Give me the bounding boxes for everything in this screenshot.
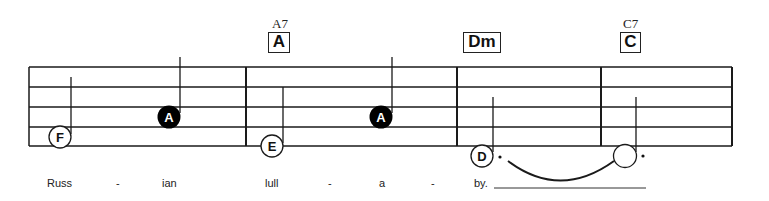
chord-box-c: C xyxy=(620,32,641,53)
note-label: F xyxy=(56,130,64,145)
lyric-syllable: by. xyxy=(474,178,488,189)
chord-box-dm: Dm xyxy=(463,32,501,53)
note-label: E xyxy=(268,139,277,154)
note-label: D xyxy=(477,149,486,164)
tie-curve xyxy=(508,161,614,181)
lyric-syllable: ian xyxy=(162,178,177,189)
chord-box-a: A xyxy=(268,32,290,53)
lyric-hyphen: - xyxy=(116,178,120,189)
dot-icon xyxy=(498,155,501,158)
lyric-syllable: lull xyxy=(265,178,278,189)
note-e: E xyxy=(261,87,283,157)
lyric-syllable: Russ xyxy=(47,178,72,189)
note-label: A xyxy=(164,110,174,125)
chord-name-c7: C7 xyxy=(623,17,638,30)
lyric-hyphen: - xyxy=(431,178,435,189)
sheet-music: F A E A D xyxy=(0,0,769,201)
dot-icon xyxy=(641,154,644,157)
chord-name-a7: A7 xyxy=(272,17,288,30)
lyric-syllable: a xyxy=(379,178,385,189)
lyric-hyphen: - xyxy=(328,178,332,189)
staff-svg: F A E A D xyxy=(0,0,769,201)
note-label: A xyxy=(376,110,386,125)
